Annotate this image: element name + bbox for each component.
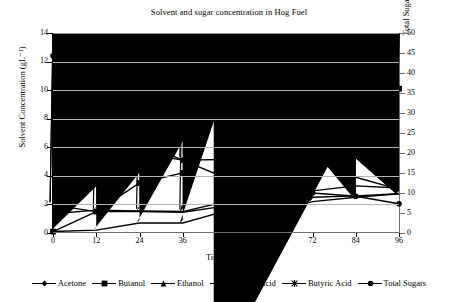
y-tick-label-right: 45: [407, 48, 437, 57]
cross-marker-icon: [210, 279, 234, 288]
plot-border-top: [53, 33, 399, 34]
x-tick-label: 60: [249, 236, 289, 245]
data-point: [93, 125, 99, 131]
y-tick-right: [400, 73, 405, 74]
square-marker-icon: [92, 279, 116, 288]
data-point: [137, 140, 143, 146]
y-tick-right: [400, 33, 405, 34]
x-tick-label: 84: [336, 236, 376, 245]
legend-label: Butanol: [118, 278, 145, 288]
y-tick-label-left: 6: [8, 142, 48, 151]
data-point: [50, 53, 56, 59]
series-layer: [53, 33, 399, 233]
diamond-marker-icon: [32, 279, 56, 288]
legend-item-acetic-acid[interactable]: Acetic Acid: [207, 278, 279, 288]
y-tick-label-right: 10: [407, 188, 437, 197]
y-tick-label-left: 10: [8, 85, 48, 94]
gridline: [53, 147, 399, 148]
legend-item-total-sugars[interactable]: Total Sugars: [355, 278, 430, 288]
gridline: [53, 204, 399, 205]
legend-label: Ethanol: [177, 278, 203, 288]
y-tick-right: [400, 53, 405, 54]
legend-label: Total Sugars: [384, 278, 427, 288]
data-point: [353, 193, 359, 199]
y-tick-label-right: 25: [407, 128, 437, 137]
y-tick-label-right: 30: [407, 108, 437, 117]
chart-container: Solvent and sugar concentration in Hog F…: [0, 0, 458, 302]
y-tick-right: [400, 153, 405, 154]
legend-label: Acetic Acid: [236, 278, 276, 288]
y-tick-right: [400, 173, 405, 174]
y-tick-label-left: 14: [8, 28, 48, 37]
data-point: [180, 157, 186, 163]
gridline: [53, 90, 399, 91]
gridline: [53, 119, 399, 120]
y-tick-right: [400, 233, 405, 234]
circle-marker-icon: [358, 279, 382, 288]
legend-item-ethanol[interactable]: Ethanol: [148, 278, 206, 288]
y-tick-label-left: 12: [8, 56, 48, 65]
y-tick-label-left: 2: [8, 199, 48, 208]
y-tick-right: [400, 193, 405, 194]
triangle-marker-icon: [151, 279, 175, 288]
gridline: [53, 62, 399, 63]
x-tick-label: 48: [206, 236, 246, 245]
x-tick-label: 36: [163, 236, 203, 245]
legend-item-butyric-acid[interactable]: Butyric Acid: [279, 278, 355, 288]
x-tick-label: 0: [33, 236, 73, 245]
y-tick-right: [400, 113, 405, 114]
y-tick-label-left: 4: [8, 170, 48, 179]
data-point: [310, 190, 316, 196]
chart-title: Solvent and sugar concentration in Hog F…: [0, 7, 458, 17]
y-tick-label-right: 20: [407, 148, 437, 157]
y-tick-label-right: 50: [407, 28, 437, 37]
y-tick-label-left: 8: [8, 113, 48, 122]
y-tick-label-right: 40: [407, 68, 437, 77]
y-tick-right: [400, 93, 405, 94]
legend-label: Butyric Acid: [308, 278, 352, 288]
legend-item-butanol[interactable]: Butanol: [89, 278, 148, 288]
legend-label: Acetone: [58, 278, 86, 288]
chart-legend: AcetoneButanolEthanolAcetic AcidButyric …: [0, 278, 458, 288]
y-tick-label-right: 15: [407, 168, 437, 177]
y-tick-right: [400, 133, 405, 134]
x-tick-label: 72: [293, 236, 333, 245]
y-tick-label-right: 5: [407, 208, 437, 217]
legend-item-acetone[interactable]: Acetone: [29, 278, 89, 288]
plot-area: [53, 33, 399, 233]
y-tick-label-right: 35: [407, 88, 437, 97]
x-tick-label: 96: [379, 236, 419, 245]
y-tick-right: [400, 213, 405, 214]
x-tick-label: 12: [76, 236, 116, 245]
x-tick-label: 24: [120, 236, 160, 245]
star-marker-icon: [282, 279, 306, 288]
gridline: [53, 176, 399, 177]
